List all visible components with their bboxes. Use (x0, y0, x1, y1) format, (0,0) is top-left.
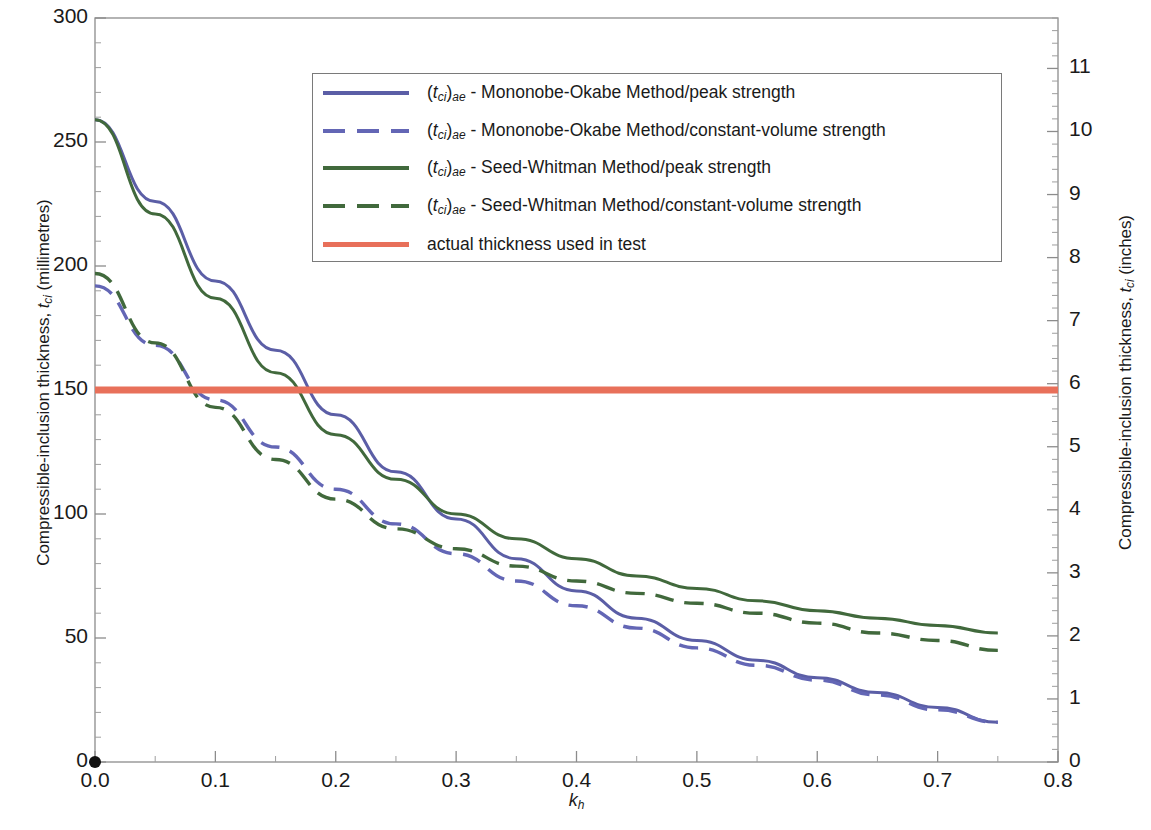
ticks-right-label: 10 (1069, 117, 1092, 141)
ticks-left-label: 150 (53, 376, 88, 400)
legend-item-3[interactable]: (tci)ae - Seed-Whitman Method/constant-v… (313, 187, 1001, 225)
legend-swatch-2 (323, 166, 409, 170)
legend-label-3: (tci)ae - Seed-Whitman Method/constant-v… (427, 195, 861, 217)
ticks-right-label: 3 (1069, 559, 1081, 583)
legend-label-2: (tci)ae - Seed-Whitman Method/peak stren… (427, 157, 771, 179)
legend-item-2[interactable]: (tci)ae - Seed-Whitman Method/peak stren… (313, 150, 1001, 188)
ticks-right-label: 11 (1069, 54, 1091, 78)
ticks-right-label: 5 (1069, 433, 1081, 457)
series-line-mononobe-okabe-constant-volume (95, 286, 998, 722)
ticks-left-label: 300 (53, 4, 88, 28)
y-axis-left-title: Compressible-inclusion thickness, tci (m… (34, 53, 55, 713)
y-right-title-sub: ci (1123, 279, 1137, 287)
y-right-title-pre: Compressible-inclusion thickness, (1116, 293, 1135, 550)
legend-item-1[interactable]: (tci)ae - Mononobe-Okabe Method/constant… (313, 112, 1001, 150)
x-title-sub: h (578, 798, 585, 812)
ticks-x-label: 0.6 (803, 768, 832, 792)
ticks-right-label: 1 (1069, 685, 1081, 709)
legend-label-1: (tci)ae - Mononobe-Okabe Method/constant… (427, 120, 886, 142)
y-axis-right-title: Compressible-inclusion thickness, tci (i… (1116, 53, 1137, 713)
legend-swatch-1 (323, 129, 409, 133)
ticks-left-label: 250 (53, 128, 88, 152)
ticks-x-label: 0.2 (321, 768, 350, 792)
legend-label-4: actual thickness used in test (427, 234, 646, 255)
ticks-x-label: 0.5 (682, 768, 711, 792)
ticks-right-label: 6 (1069, 370, 1081, 394)
ticks-right-label: 7 (1069, 307, 1081, 331)
ticks-right-label: 4 (1069, 496, 1081, 520)
y-left-title-sub: ci (41, 295, 55, 303)
legend-item-4[interactable]: actual thickness used in test (313, 225, 1001, 263)
ticks-x-label: 0.4 (562, 768, 591, 792)
legend-label-0: (tci)ae - Mononobe-Okabe Method/peak str… (427, 82, 795, 104)
ticks-right-label: 9 (1069, 181, 1081, 205)
y-right-title-var: t (1116, 288, 1135, 293)
y-left-title-post: (millimetres) (34, 199, 53, 295)
legend-swatch-0 (323, 91, 409, 95)
ticks-x-label: 0.7 (923, 768, 952, 792)
ticks-x-label: 0.0 (80, 768, 109, 792)
ticks-x-label: 0.3 (442, 768, 471, 792)
ticks-left-label: 200 (53, 252, 88, 276)
ticks-x-label: 0.8 (1043, 768, 1072, 792)
legend-item-0[interactable]: (tci)ae - Mononobe-Okabe Method/peak str… (313, 74, 1001, 112)
ticks-right-label: 2 (1069, 622, 1081, 646)
legend-swatch-3 (323, 204, 409, 208)
y-left-title-var: t (34, 304, 53, 309)
ticks-x-label: 0.1 (201, 768, 230, 792)
chart-legend: (tci)ae - Mononobe-Okabe Method/peak str… (312, 73, 1002, 262)
legend-swatch-4 (323, 242, 409, 247)
ticks-left-label: 50 (65, 624, 88, 648)
x-title-var: k (569, 790, 578, 810)
y-left-title-pre: Compressible-inclusion thickness, (34, 308, 53, 565)
ticks-right-label: 8 (1069, 244, 1081, 268)
ticks-left-label: 100 (53, 500, 88, 524)
y-right-title-post: (inches) (1116, 215, 1135, 279)
origin-marker-dot (89, 756, 101, 768)
x-axis-title: kh (95, 790, 1058, 812)
